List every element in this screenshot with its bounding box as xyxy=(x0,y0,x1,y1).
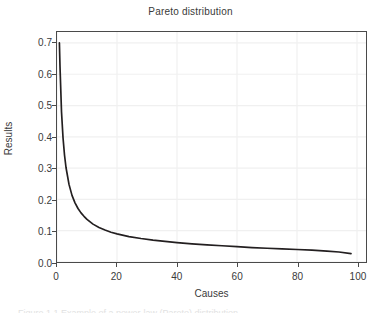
x-axis-tick-labels: 020406080100 xyxy=(56,263,367,283)
x-tick-label-80: 80 xyxy=(278,271,318,282)
x-axis-label: Causes xyxy=(56,288,367,299)
plot-area xyxy=(56,31,367,263)
x-tick-label-40: 40 xyxy=(157,271,197,282)
x-tick-label-100: 100 xyxy=(338,271,378,282)
chart-figure: Pareto distribution Results 0.00.10.20.3… xyxy=(0,0,381,316)
x-tick-label-60: 60 xyxy=(217,271,257,282)
footer-caption-artifact: Figure 1.1 Example of a power-law (Paret… xyxy=(18,306,363,313)
x-tick-label-0: 0 xyxy=(36,271,76,282)
pareto-curve xyxy=(57,32,366,262)
y-axis-tick-marks xyxy=(0,31,56,263)
series-line-pareto-density xyxy=(59,43,351,254)
chart-title: Pareto distribution xyxy=(0,6,381,17)
x-tick-label-20: 20 xyxy=(96,271,136,282)
